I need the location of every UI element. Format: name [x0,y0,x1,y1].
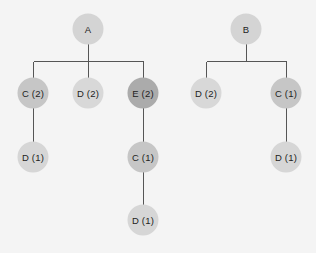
node-label: D (2) [77,88,99,99]
tree-edges [0,0,316,253]
node-a-d2: D (2) [73,78,104,109]
node-a-root: A [73,14,104,45]
node-a-e2-c1: C (1) [128,142,159,173]
node-label: D (1) [22,152,44,163]
node-label: D (1) [132,215,154,226]
node-label: A [85,24,92,35]
node-label: C (1) [132,152,154,163]
node-label: C (2) [22,88,44,99]
node-label: B [243,24,250,35]
node-label: D (2) [195,88,217,99]
node-label: C (1) [275,88,297,99]
tree-diagram: A C (2) D (2) E (2) D (1) C (1) D (1) B … [0,0,316,253]
node-a-e2-c1-d1: D (1) [128,205,159,236]
node-b-c1: C (1) [271,78,302,109]
node-label: D (1) [275,152,297,163]
node-a-c2-d1: D (1) [18,142,49,173]
node-a-c2: C (2) [18,78,49,109]
node-a-e2: E (2) [128,78,159,109]
node-label: E (2) [132,88,154,99]
node-b-root: B [231,14,262,45]
node-b-c1-d1: D (1) [271,142,302,173]
node-b-d2: D (2) [191,78,222,109]
